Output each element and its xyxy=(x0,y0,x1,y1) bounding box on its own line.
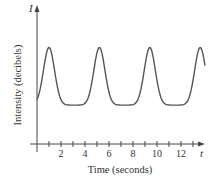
x-tick-label: 8 xyxy=(131,148,136,159)
x-tick-label: 2 xyxy=(59,148,64,159)
x-axis-variable: t xyxy=(200,147,204,159)
x-tick-label: 12 xyxy=(176,148,186,159)
x-axis-tick-labels: 24681012 xyxy=(59,148,187,159)
intensity-curve xyxy=(37,48,205,106)
x-axis-arrow-icon xyxy=(198,142,205,147)
y-axis-label: Intensity (decibels) xyxy=(12,44,24,125)
x-tick-label: 6 xyxy=(107,148,112,159)
x-tick-label: 4 xyxy=(83,148,88,159)
y-axis-variable: I xyxy=(28,2,34,14)
intensity-chart: I t 24681012 Time (seconds) Intensity (d… xyxy=(0,0,215,180)
x-axis-label: Time (seconds) xyxy=(88,164,153,176)
x-tick-label: 10 xyxy=(152,148,162,159)
y-axis-arrow-icon xyxy=(35,5,40,12)
